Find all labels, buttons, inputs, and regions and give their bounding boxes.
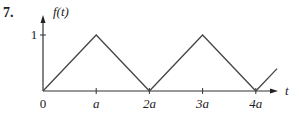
y-axis-label: f(t) — [53, 4, 69, 19]
y-tick-label: 1 — [31, 27, 38, 42]
y-axis-arrow — [41, 15, 46, 23]
x-tick-label: 0 — [40, 96, 47, 111]
x-tick-label: 4a — [249, 96, 263, 111]
ticks: 0a2a3a4a1 — [31, 27, 263, 111]
axes — [41, 15, 279, 94]
x-tick-label: 3a — [195, 96, 210, 111]
x-axis-label: t — [285, 83, 289, 98]
x-axis-arrow — [270, 89, 278, 94]
chart: 7. 0a2a3a4a1 f(t) t — [0, 0, 299, 114]
x-tick-label: a — [93, 96, 100, 111]
series — [43, 35, 277, 91]
x-tick-label: 2a — [143, 96, 157, 111]
problem-number: 7. — [3, 5, 14, 20]
series-line — [43, 35, 277, 91]
